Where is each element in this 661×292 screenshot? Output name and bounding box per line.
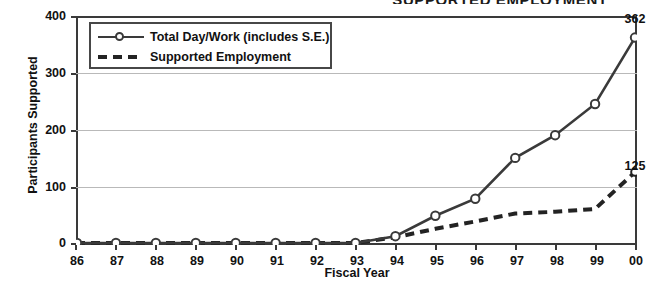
data-point-marker: [391, 232, 399, 240]
data-point-marker: [112, 239, 120, 245]
data-point-marker: [152, 239, 160, 245]
data-point-marker: [192, 239, 200, 245]
y-tick-label-300: 300: [26, 66, 66, 80]
data-point-marker: [431, 212, 439, 220]
data-point-marker: [232, 239, 240, 245]
legend-label-total-day-work: Total Day/Work (includes S.E.): [150, 30, 329, 44]
legend-key-dashed-line-icon: [98, 50, 144, 64]
data-point-marker: [511, 154, 519, 162]
data-point-marker: [551, 131, 559, 139]
data-label-se-125: 125: [615, 159, 655, 173]
data-point-marker: [311, 239, 319, 245]
chart-legend: Total Day/Work (includes S.E.) Supported…: [89, 22, 332, 69]
legend-item-total-day-work: Total Day/Work (includes S.E.): [91, 26, 329, 48]
legend-key-line-marker-icon: [98, 30, 144, 44]
chart-title: SUPPORTED EMPLOYMENT: [355, 0, 645, 4]
legend-label-supported-employment: Supported Employment: [150, 50, 291, 64]
y-tick-label-0: 0: [26, 236, 66, 250]
y-tick-label-400: 400: [26, 9, 66, 23]
series-supported-employment: [76, 172, 635, 243]
y-tick-label-200: 200: [26, 123, 66, 137]
data-point-marker: [351, 239, 359, 245]
data-point-marker: [471, 195, 479, 203]
y-tick-label-100: 100: [26, 180, 66, 194]
data-point-marker: [631, 33, 637, 41]
data-point-marker: [76, 239, 81, 245]
x-axis-title: Fiscal Year: [76, 266, 638, 280]
chart-figure: SUPPORTED EMPLOYMENT Participants Suppor…: [0, 0, 661, 292]
data-point-marker: [591, 100, 599, 108]
data-label-total-362: 362: [615, 12, 655, 26]
data-point-marker: [271, 239, 279, 245]
legend-item-supported-employment: Supported Employment: [91, 46, 291, 68]
